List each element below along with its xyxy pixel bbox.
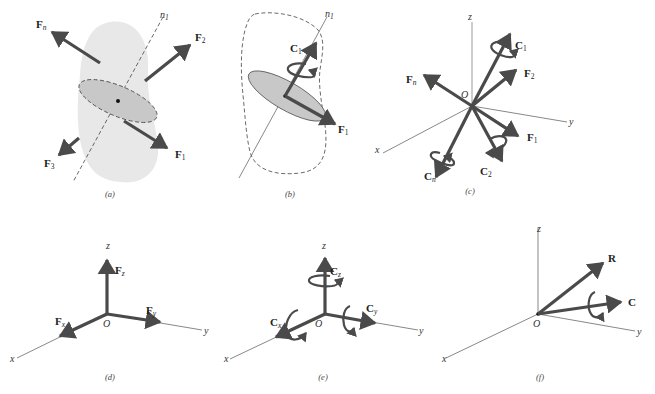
force-arrow-F3 [59,138,79,155]
axis-label-n1: n1 [325,8,334,21]
axis-label-z: z [105,240,110,251]
panel-a: n1 Fn F2 F3 F1 (a) [36,9,206,199]
axis-label-x: x [441,353,447,364]
label-F1: F1 [338,123,349,137]
axis-label-z: z [467,11,472,22]
caption-f: (f) [536,372,544,382]
axis-label-x: x [374,144,380,155]
panel-d: z x y O Fz Fy Fx (d) [9,240,209,382]
caption-e: (e) [318,372,328,382]
caption-d: (d) [105,372,115,382]
caption-c: (c) [465,186,475,196]
axis-label-y: y [418,325,424,336]
label-R: R [608,252,617,264]
label-Cx: Cx [270,316,282,330]
axis-label-x: x [9,353,15,364]
force-system-figure: n1 Fn F2 F3 F1 (a) n1 C1 F1 (b) z [0,0,655,394]
label-Fx: Fx [55,315,66,329]
section-point [116,99,120,103]
panel-c: z x y O Fn C1 F2 F1 C2 Cn (c) [374,11,574,196]
label-Cz: Cz [330,265,341,279]
label-C2: C2 [480,165,492,179]
label-Cn: Cn [424,170,436,184]
origin-label: O [103,318,110,329]
force-arrow-F2 [145,45,190,81]
label-F2: F2 [524,67,535,81]
axis-label-z: z [536,223,541,234]
panel-b: n1 C1 F1 (b) [239,8,349,199]
label-C: C [628,296,636,308]
couple-vector-Cn [436,106,472,177]
label-Fn: Fn [36,18,47,32]
label-F3: F3 [44,157,55,171]
axis-label-x: x [223,353,229,364]
panel-e: z x y O Cz Cy Cx (e) [223,240,424,382]
y-axis [538,314,635,331]
couple-rotation-Cn [431,152,454,165]
label-C1: C1 [515,39,527,53]
label-Fz: Fz [115,264,125,278]
axis-label-y: y [636,326,642,337]
force-arrow-F2 [472,70,516,106]
caption-b: (b) [285,189,295,199]
label-F1: F1 [175,148,186,162]
panel-f: z x y O R C (f) [441,223,642,382]
label-Fn: Fn [406,73,417,87]
origin-label: O [461,89,468,100]
origin-label: O [315,318,322,329]
label-F1: F1 [527,131,538,145]
couple-vector-Cy [325,314,375,323]
label-Fy: Fy [146,304,157,318]
axis-label-y: y [203,325,209,336]
axis-label-y: y [568,116,574,127]
x-axis [446,314,538,358]
axis-label-z: z [321,240,326,251]
label-C1: C1 [290,42,302,56]
label-F2: F2 [195,31,206,45]
force-arrow-Fx [60,314,107,336]
label-Cy: Cy [366,302,378,316]
origin-label: O [533,318,540,329]
caption-a: (a) [105,189,115,199]
